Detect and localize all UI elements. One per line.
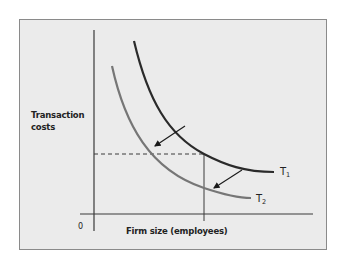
x-axis-label: Firm size (employees): [126, 226, 228, 236]
curve-t1: [134, 41, 274, 172]
origin-label: 0: [78, 222, 83, 231]
y-axis-label-line1: Transaction: [31, 109, 84, 121]
shift-arrow-lower: [214, 170, 242, 188]
y-axis-label: Transaction costs: [31, 109, 84, 133]
curve-t1-label: T1: [280, 166, 290, 179]
curve-t2-label: T2: [256, 193, 266, 206]
t2-label-sub: 2: [262, 198, 266, 206]
t1-label-sub: 1: [286, 171, 290, 179]
y-axis-label-line2: costs: [31, 121, 84, 133]
